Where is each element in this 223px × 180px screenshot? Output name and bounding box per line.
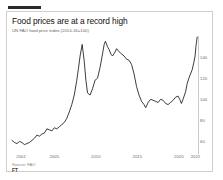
- chart-title: Food prices are at a record high: [12, 16, 202, 26]
- publisher-logo: FT: [12, 168, 18, 173]
- series-line-un-fao-food-price-index: [12, 37, 197, 145]
- brand-rule: [8, 6, 41, 9]
- y-axis-ticks: 1401201008060: [200, 36, 218, 152]
- x-tick-label: 2001: [16, 154, 26, 159]
- y-tick-label: 100: [200, 97, 207, 102]
- y-tick-label: 120: [200, 76, 207, 81]
- chart-card: Food prices are at a record high UN FAO …: [6, 11, 213, 172]
- x-tick-label: 2005: [50, 154, 60, 159]
- x-tick-label: 2015: [133, 154, 143, 159]
- chart-subtitle: UN FAO food price index (2014-16=100): [12, 28, 202, 34]
- x-tick-label: 2022: [191, 154, 201, 159]
- line-chart-svg: [12, 36, 198, 152]
- x-axis-ticks: 200120052010201520202022: [12, 154, 218, 162]
- y-tick-label: 60: [200, 139, 205, 144]
- source-note: Source: FAO: [12, 162, 35, 167]
- graphic-root: Food prices are at a record high UN FAO …: [0, 0, 223, 180]
- y-tick-label: 80: [200, 118, 205, 123]
- y-axis-line: [198, 36, 199, 154]
- y-tick-label: 140: [200, 55, 207, 60]
- x-tick-label: 2020: [174, 154, 184, 159]
- x-tick-label: 2010: [91, 154, 101, 159]
- plot-area: [12, 36, 198, 152]
